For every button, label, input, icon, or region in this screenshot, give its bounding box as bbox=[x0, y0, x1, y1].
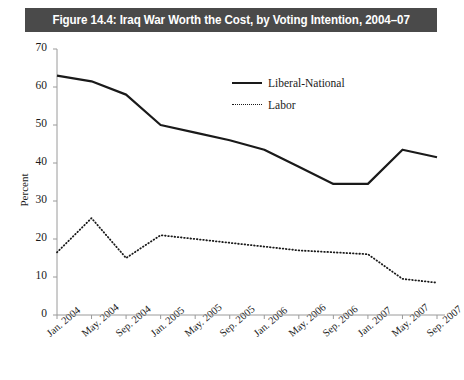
x-axis-ticks bbox=[57, 315, 437, 319]
legend-swatch-solid-line-icon bbox=[232, 78, 262, 88]
series-line-labor bbox=[57, 218, 437, 283]
plot-area: Percent 010203040506070 Jan. 2004May. 20… bbox=[0, 32, 455, 380]
figure-title: Figure 14.4: Iraq War Worth the Cost, by… bbox=[52, 13, 409, 27]
y-axis-ticks bbox=[53, 49, 57, 315]
legend-item-labor: Labor bbox=[232, 94, 402, 116]
figure-title-bar: Figure 14.4: Iraq War Worth the Cost, by… bbox=[25, 8, 437, 32]
legend-label-liberal-national: Liberal-National bbox=[262, 77, 345, 89]
legend-label-labor: Labor bbox=[262, 99, 295, 111]
chart-legend: Liberal-National Labor bbox=[232, 72, 402, 116]
legend-swatch-dotted-line-icon bbox=[232, 100, 262, 110]
legend-item-liberal-national: Liberal-National bbox=[232, 72, 402, 94]
